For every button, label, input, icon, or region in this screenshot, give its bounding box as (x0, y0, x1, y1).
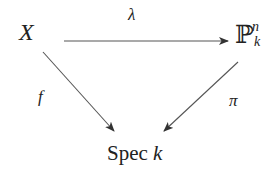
projective-space-subscript: k (254, 35, 260, 49)
node-x: X (19, 20, 34, 44)
projective-space-superscript: n (252, 20, 259, 34)
label-f: f (38, 88, 43, 105)
spec-k-text: k (153, 141, 162, 165)
label-pi: π (229, 92, 238, 109)
node-spec-k: Spec k (107, 143, 162, 164)
label-lambda: λ (128, 6, 135, 23)
arrow-pi (164, 62, 238, 131)
arrow-f (43, 52, 114, 131)
spec-text: Spec (107, 141, 148, 165)
node-projective-space: ℙ n k (235, 22, 254, 47)
projective-space-symbol: ℙ (235, 20, 254, 49)
